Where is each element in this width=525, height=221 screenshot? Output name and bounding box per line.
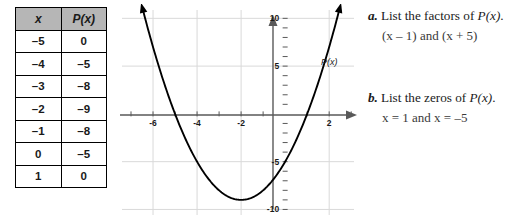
cell-px: 0	[61, 30, 107, 53]
question-b-answer: x = 1 and x = –5	[382, 110, 520, 126]
cell-x: –3	[16, 75, 62, 98]
question-a-letter: a.	[368, 8, 378, 23]
x-tick-label: -2	[237, 118, 245, 128]
question-a-prompt: a.List the factors of P(x).	[368, 8, 520, 24]
curve-right-arrow-icon	[335, 4, 342, 14]
table-row: –1–8	[16, 120, 107, 143]
cell-px: –5	[61, 143, 107, 166]
cell-px: –8	[61, 75, 107, 98]
question-b-prompt-math: P(x)	[470, 90, 493, 105]
cell-x: 1	[16, 165, 62, 188]
curve-left-arrow-icon	[140, 4, 147, 14]
question-a-prompt-post: .	[500, 8, 503, 23]
y-tick-label: 5	[274, 61, 279, 71]
cell-px: 0	[61, 165, 107, 188]
cell-x: –4	[16, 53, 62, 76]
y-tick-label: 10	[270, 13, 280, 23]
table-row: –3–8	[16, 75, 107, 98]
question-a-prompt-pre: List the factors of	[381, 8, 478, 23]
question-b-prompt-post: .	[492, 90, 495, 105]
curve-label: P(x)	[321, 57, 338, 67]
question-b-prompt: b.List the zeros of P(x).	[368, 90, 520, 106]
cell-x: –5	[16, 30, 62, 53]
cell-x: 0	[16, 143, 62, 166]
cell-px: –5	[61, 53, 107, 76]
table-body: –50–4–5–3–8–2–9–1–80–510	[16, 30, 107, 188]
x-tick-label: 2	[327, 118, 332, 128]
table-row: 0–5	[16, 143, 107, 166]
table-row: –4–5	[16, 53, 107, 76]
x-tick-label: -4	[193, 118, 201, 128]
cell-x: –2	[16, 98, 62, 121]
question-b-letter: b.	[368, 90, 378, 105]
gridlines	[122, 10, 354, 215]
questions-panel: a.List the factors of P(x). (x – 1) and …	[368, 8, 520, 126]
table-row: 10	[16, 165, 107, 188]
question-b: b.List the zeros of P(x). x = 1 and x = …	[368, 90, 520, 126]
y-tick-label: -5	[272, 157, 280, 167]
cell-x: –1	[16, 120, 62, 143]
question-b-prompt-pre: List the zeros of	[381, 90, 470, 105]
y-tick-label: -10	[267, 204, 280, 214]
table-header-row: x P(x)	[16, 8, 107, 31]
question-a-answer: (x – 1) and (x + 5)	[382, 28, 520, 44]
question-a-prompt-math: P(x)	[478, 8, 501, 23]
cell-px: –9	[61, 98, 107, 121]
cell-px: –8	[61, 120, 107, 143]
value-table: x P(x) –50–4–5–3–8–2–9–1–80–510	[15, 7, 107, 188]
x-tick-label: -6	[149, 118, 157, 128]
table-row: –2–9	[16, 98, 107, 121]
table-header-x: x	[16, 8, 62, 31]
parabola-graph: -6-4-22105-5-10 P(x)	[120, 4, 360, 219]
tick-labels: -6-4-22105-5-10	[149, 13, 332, 214]
table-header-px: P(x)	[61, 8, 107, 31]
question-a: a.List the factors of P(x). (x – 1) and …	[368, 8, 520, 44]
table-row: –50	[16, 30, 107, 53]
